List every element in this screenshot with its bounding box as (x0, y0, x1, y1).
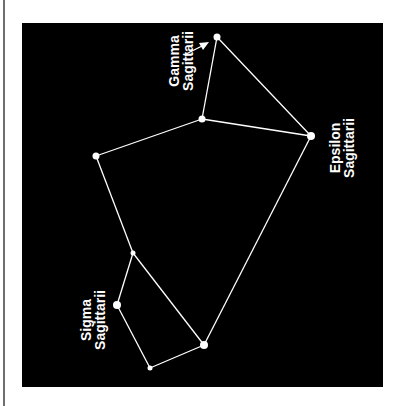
label-epsilon-sagittarii: Epsilon Sagittarii (328, 102, 356, 194)
label-line: Epsilon (328, 102, 342, 194)
constellation-diagram (0, 0, 403, 406)
star-sigma (113, 301, 121, 309)
star-southeast (200, 341, 208, 349)
constellation-line (117, 305, 150, 368)
star-west (93, 153, 100, 160)
constellation-line (217, 37, 311, 136)
star-center (199, 116, 206, 123)
constellation-line (150, 345, 204, 368)
label-sigma-sagittarii: Sigma Sagittarii (79, 275, 107, 365)
star-mid (131, 251, 136, 256)
star-epsilon (307, 132, 315, 140)
label-line: Sagittarii (181, 16, 195, 106)
star-gamma (214, 34, 221, 41)
label-gamma-sagittarii: Gamma Sagittarii (167, 16, 195, 106)
constellation-line (96, 156, 133, 253)
constellation-line (96, 119, 202, 156)
constellation-line (202, 119, 311, 136)
label-line: Sagittarii (342, 102, 356, 194)
label-line: Gamma (167, 16, 181, 106)
constellation-line (204, 136, 311, 345)
label-line: Sigma (79, 275, 93, 365)
star-south (148, 366, 153, 371)
constellation-line (117, 253, 133, 305)
constellation-line (133, 253, 204, 345)
label-line: Sagittarii (93, 275, 107, 365)
constellation-line (202, 37, 217, 119)
